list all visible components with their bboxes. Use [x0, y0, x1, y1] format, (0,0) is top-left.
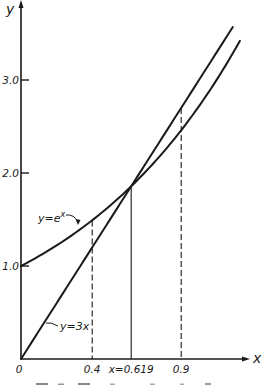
y-tick-label: 3.0	[2, 74, 19, 86]
label-3x: y=3x	[46, 320, 90, 333]
curve-exp	[21, 41, 240, 266]
y-axis-label: y	[5, 1, 15, 17]
x-tick-label: 0.4	[84, 363, 101, 375]
x-axis-label: x	[252, 350, 262, 366]
label-exp: y=ex	[37, 210, 81, 225]
y-tick-label: 1.0	[2, 260, 19, 272]
x-tick-label: 0.9	[173, 363, 190, 375]
svg-text:y=ex: y=ex	[37, 210, 66, 225]
curve-3x	[21, 27, 233, 359]
chart: y x 1.02.03.0 00.4x=0.6190.9 y=ex y=3x	[0, 0, 265, 385]
label-3x-text: y=3x	[59, 320, 90, 333]
y-ticks: 1.02.03.0	[2, 74, 29, 272]
y-tick-label: 2.0	[2, 167, 19, 179]
label-3x-leader	[46, 323, 58, 326]
x-ticks: 00.4x=0.6190.9	[16, 363, 190, 375]
label-exp-superscript: x	[60, 210, 66, 219]
x-tick-label: x=0.619	[108, 363, 154, 375]
y-axis-arrow-icon	[19, 0, 24, 8]
leader-arrow-icon	[76, 219, 81, 225]
x-tick-label: 0	[16, 363, 23, 375]
label-exp-text: y=e	[37, 212, 61, 225]
label-exp-leader	[66, 215, 78, 222]
x-axis-arrow-icon	[242, 357, 250, 362]
